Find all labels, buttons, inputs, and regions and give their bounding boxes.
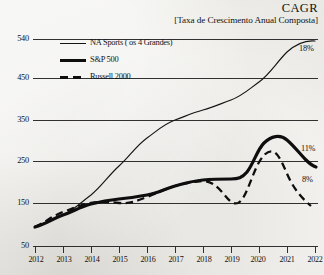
series-line-russell-2000 <box>35 151 311 227</box>
y-axis-label-350: 350 <box>3 115 29 124</box>
legend-label-russell-2000: Russell 2000 <box>90 72 131 81</box>
y-axis-label-50: 50 <box>3 241 29 250</box>
y-axis-label-250: 250 <box>3 156 29 165</box>
y-axis-label-540: 540 <box>3 34 29 43</box>
x-axis <box>33 247 318 253</box>
x-axis-label-2022: 2022 <box>298 255 324 264</box>
series-line-sp500 <box>35 136 316 227</box>
end-label-sp500: 11% <box>301 144 315 153</box>
cagr-line-chart: CAGR [Taxa de Crescimento Anual Composta… <box>0 0 324 275</box>
y-axis-label-150: 150 <box>3 198 29 207</box>
end-label-na-sports: 18% <box>299 44 314 53</box>
legend-label-sp500: S&P 500 <box>90 55 118 64</box>
y-axis-label-450: 450 <box>3 73 29 82</box>
legend-label-na-sports: NA Sports ( os 4 Grandes) <box>90 38 172 47</box>
end-label-russell-2000: 8% <box>302 175 313 184</box>
